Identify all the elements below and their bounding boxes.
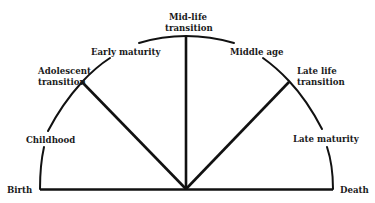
label-late-maturity: Late maturity bbox=[293, 134, 360, 144]
spoke-late-life-transition bbox=[186, 82, 289, 189]
label-late-life-transition-line2: transition bbox=[297, 77, 345, 87]
label-early-maturity: Early maturity bbox=[91, 47, 162, 57]
label-middle-age: Middle age bbox=[230, 47, 284, 57]
label-death: Death bbox=[340, 185, 369, 195]
arc-segment-childhood-lower bbox=[40, 147, 44, 189]
label-adolescent-transition-line1: Adolescent bbox=[37, 66, 91, 76]
label-adolescent-transition-line2: transition bbox=[38, 77, 86, 87]
label-mid-life-transition-line1: Mid-life bbox=[169, 12, 208, 22]
label-birth: Birth bbox=[7, 185, 33, 195]
label-mid-life-transition-line2: transition bbox=[165, 23, 213, 33]
label-late-life-transition-line1: Late life bbox=[297, 66, 337, 76]
life-cycle-diagram: Birth Death Childhood Adolescent transit… bbox=[0, 0, 375, 203]
spoke-adolescent-transition bbox=[82, 82, 186, 189]
arc-segment-late-maturity-lower bbox=[327, 147, 333, 189]
label-childhood: Childhood bbox=[26, 135, 75, 145]
